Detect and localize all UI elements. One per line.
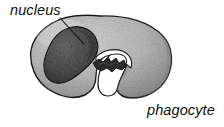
phagocyte-figure: nucleus phagocyte bbox=[0, 0, 224, 127]
label-phagocyte: phagocyte bbox=[147, 103, 215, 118]
label-nucleus: nucleus bbox=[10, 3, 61, 18]
